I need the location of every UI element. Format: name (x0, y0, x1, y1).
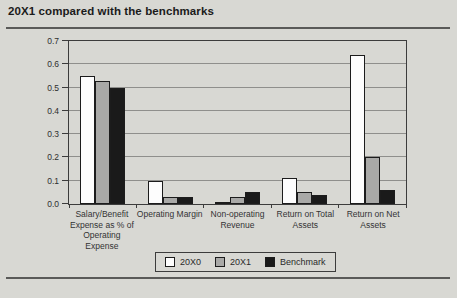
x-axis-tick (203, 204, 204, 208)
bar-20x0 (80, 76, 95, 204)
legend-swatch-icon (215, 257, 225, 267)
y-axis-tick (62, 40, 69, 41)
x-axis-tick (271, 204, 272, 208)
x-axis-category-label: Salary/Benefit Expense as % of Operating… (68, 209, 136, 251)
bar-group (136, 41, 203, 204)
legend-label: 20X1 (230, 257, 251, 267)
bar-benchmark (312, 195, 327, 204)
bar-20x0 (148, 181, 163, 204)
y-axis-tick-label: 0.4 (33, 106, 59, 116)
bar-20x1 (230, 197, 245, 204)
bar-20x0 (215, 202, 230, 204)
x-axis-category-label: Return on Total Assets (271, 209, 339, 251)
y-axis-tick-label: 0.2 (33, 152, 59, 162)
legend-label: 20X0 (180, 257, 201, 267)
bar-20x1 (95, 81, 110, 204)
bar-20x1 (297, 192, 312, 204)
y-axis-tick-label: 0.0 (33, 199, 59, 209)
plot-area: 0.00.10.20.30.40.50.60.7 (68, 40, 407, 205)
bar-20x1 (163, 197, 178, 204)
bottom-divider (6, 277, 450, 279)
figure-page: 20X1 compared with the benchmarks 0.00.1… (0, 0, 457, 298)
bar-group (69, 41, 136, 204)
x-axis-tick (69, 204, 70, 208)
y-axis-tick-label: 0.5 (33, 83, 59, 93)
y-axis-tick (62, 110, 69, 111)
bar-benchmark (245, 192, 260, 204)
x-axis-tick (406, 204, 407, 208)
legend-item-benchmark: Benchmark (265, 257, 326, 267)
y-axis-tick-label: 0.1 (33, 176, 59, 186)
bar-benchmark (178, 197, 193, 204)
bar-20x0 (282, 178, 297, 204)
x-axis-tick (338, 204, 339, 208)
x-axis-category-label: Non-operating Revenue (204, 209, 272, 251)
y-axis-tick (62, 156, 69, 157)
y-axis-tick (62, 133, 69, 134)
y-axis-tick-label: 0.3 (33, 129, 59, 139)
y-axis-tick (62, 180, 69, 181)
bar-20x1 (365, 157, 380, 204)
legend-item-20x1: 20X1 (215, 257, 251, 267)
bar-groups (69, 41, 406, 204)
legend-swatch-icon (265, 257, 275, 267)
y-axis-tick (62, 87, 69, 88)
title-divider (6, 27, 450, 29)
bar-20x0 (350, 55, 365, 204)
legend-swatch-icon (165, 257, 175, 267)
y-axis-tick-label: 0.7 (33, 36, 59, 46)
y-axis-tick-label: 0.6 (33, 59, 59, 69)
bar-group (204, 41, 271, 204)
y-axis-tick (62, 63, 69, 64)
x-axis-category-label: Operating Margin (136, 209, 204, 251)
chart-title: 20X1 compared with the benchmarks (8, 5, 214, 17)
bar-group (271, 41, 338, 204)
legend-label: Benchmark (280, 257, 326, 267)
legend-item-20x0: 20X0 (165, 257, 201, 267)
bar-group (339, 41, 406, 204)
legend: 20X020X1Benchmark (155, 252, 336, 272)
bar-benchmark (110, 88, 125, 204)
x-axis-tick (136, 204, 137, 208)
x-axis-labels: Salary/Benefit Expense as % of Operating… (68, 209, 407, 251)
x-axis-category-label: Return on Net Assets (339, 209, 407, 251)
bar-benchmark (380, 190, 395, 204)
